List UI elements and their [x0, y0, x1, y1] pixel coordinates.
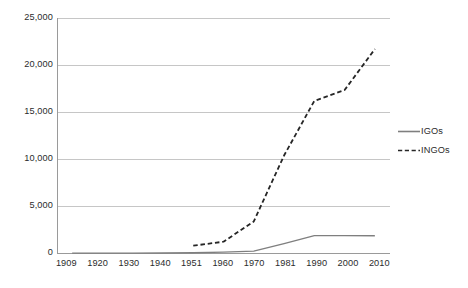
series-line-igos	[72, 236, 375, 254]
series-line-ingos	[193, 49, 375, 246]
legend: IGOs INGOs	[398, 122, 464, 160]
y-tick-label: 10,000	[3, 154, 53, 163]
axis-lines	[57, 18, 390, 254]
y-axis: 25,000 20,000 15,000 10,000 5,000 0	[0, 0, 53, 288]
legend-label-ingos: INGOs	[420, 146, 450, 155]
y-tick-label: 15,000	[3, 107, 53, 116]
y-tick-label: 20,000	[3, 60, 53, 69]
y-tick-label: 5,000	[3, 201, 53, 210]
dashed-line-icon	[398, 146, 420, 155]
line-chart: 25,000 20,000 15,000 10,000 5,000 0	[0, 0, 468, 288]
legend-item-igos[interactable]: IGOs	[398, 122, 464, 141]
x-tick-label: 2010	[359, 258, 399, 268]
y-tick-label: 0	[3, 248, 53, 257]
legend-item-ingos[interactable]: INGOs	[398, 141, 464, 160]
gridlines	[57, 19, 390, 207]
plot-area	[57, 18, 390, 254]
x-axis: 1909 1920 1930 1940 1951 1960 1970 1981 …	[57, 258, 390, 274]
y-tick-label: 25,000	[3, 13, 53, 22]
plot-svg	[57, 18, 390, 254]
legend-label-igos: IGOs	[420, 127, 443, 136]
solid-line-icon	[398, 127, 420, 136]
